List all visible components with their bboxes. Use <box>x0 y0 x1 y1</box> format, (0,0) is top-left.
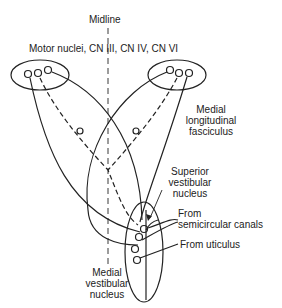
mlf-label: Medial longitudinal fasciculus <box>179 104 243 137</box>
scc-label-line2: semicircular canals <box>178 219 263 230</box>
utriculus-label: From uticulus <box>180 239 240 250</box>
medial-vestibular-nucleus-label: Medial vestibular nucleus <box>83 267 131 300</box>
semicircular-canals-label: From semicircular canals <box>178 208 263 230</box>
mvn-label-line3: nucleus <box>83 289 131 300</box>
svn-label-line1: Superior <box>166 166 214 177</box>
mlf-label-line2: longitudinal <box>179 115 243 126</box>
mvn-label-line1: Medial <box>83 267 131 278</box>
scc-label-line1: From <box>178 208 263 219</box>
mlf-label-line1: Medial <box>179 104 243 115</box>
svn-label-line2: vestibular <box>166 177 214 188</box>
right-motor-nucleus <box>148 60 206 90</box>
svn-label-line3: nucleus <box>166 188 214 199</box>
superior-vestibular-nucleus-label: Superior vestibular nucleus <box>166 166 214 199</box>
vestibulo-ocular-diagram: Midline Motor nuclei, CN III, CN IV, CN … <box>0 0 282 308</box>
mlf-label-line3: fasciculus <box>179 126 243 137</box>
midline-label: Midline <box>89 14 121 25</box>
motor-nuclei-label: Motor nuclei, CN III, CN IV, CN VI <box>29 43 178 54</box>
mvn-label-line2: vestibular <box>83 278 131 289</box>
